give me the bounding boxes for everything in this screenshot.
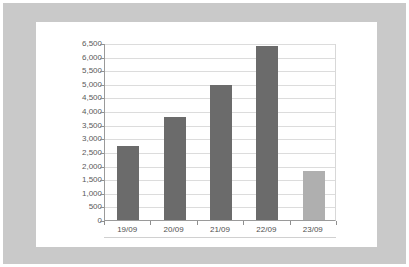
y-axis-tick-label: 5,500 (40, 67, 102, 75)
y-axis-tick-label: 4,500 (40, 94, 102, 102)
y-axis: 6,5006,0005,5005,0004,5004,0003,5003,000… (36, 44, 102, 222)
image-frame-border: 6,5006,0005,5005,0004,5004,0003,5003,000… (3, 3, 406, 264)
x-axis-tick-label: 20/09 (150, 225, 196, 235)
x-axis-tick-label: 21/09 (197, 225, 243, 235)
x-axis-tick-mark (336, 221, 337, 225)
bar-21-09[interactable] (210, 85, 232, 220)
y-axis-tick-label: 1,000 (40, 190, 102, 198)
x-axis-tick-label: 19/09 (104, 225, 150, 235)
y-axis-tick-label: 1,500 (40, 176, 102, 184)
y-axis-tick-label: 4,000 (40, 108, 102, 116)
x-axis-tick-mark (243, 221, 244, 225)
gridline (105, 58, 335, 59)
bar-23-09[interactable] (303, 171, 325, 220)
y-axis-tick-label: 2,500 (40, 149, 102, 157)
x-axis-underline (104, 237, 336, 238)
y-axis-tick-label: 0 (40, 217, 102, 225)
x-axis-tick-mark (290, 221, 291, 225)
plot-area (104, 44, 336, 221)
chart-screenshot: 6,5006,0005,5005,0004,5004,0003,5003,000… (0, 0, 409, 267)
x-axis-tick-mark (150, 221, 151, 225)
chart-panel: 6,5006,0005,5005,0004,5004,0003,5003,000… (36, 22, 377, 247)
x-axis-tick-label: 23/09 (290, 225, 336, 235)
bar-22-09[interactable] (256, 46, 278, 220)
y-axis-tick-label: 5,000 (40, 81, 102, 89)
x-axis-tick-label: 22/09 (243, 225, 289, 235)
y-axis-tick-label: 2,000 (40, 163, 102, 171)
y-axis-tick-label: 500 (40, 203, 102, 211)
y-axis-tick-label: 3,000 (40, 135, 102, 143)
gridline (105, 44, 335, 45)
x-axis-tick-mark (197, 221, 198, 225)
y-axis-tick-label: 6,000 (40, 54, 102, 62)
y-axis-tick-label: 6,500 (40, 40, 102, 48)
bar-19-09[interactable] (117, 146, 139, 220)
bar-20-09[interactable] (164, 117, 186, 220)
x-axis-tick-mark (104, 221, 105, 225)
gridline (105, 71, 335, 72)
y-axis-tick-label: 3,500 (40, 122, 102, 130)
